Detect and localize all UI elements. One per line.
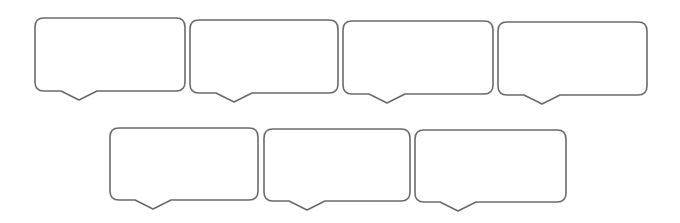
speech-bubble-4 (498, 22, 647, 104)
speech-bubble-outline (415, 130, 566, 211)
speech-bubble-7 (415, 130, 566, 211)
speech-bubble-3 (343, 21, 493, 103)
speech-bubble-outline (190, 20, 338, 102)
speech-bubble-1 (35, 18, 185, 100)
speech-bubble-outline (110, 128, 258, 209)
bubble-group (35, 18, 647, 211)
speech-bubble-outline (264, 129, 410, 210)
speech-bubble-6 (264, 129, 410, 210)
speech-bubble-outline (343, 21, 493, 103)
speech-bubble-2 (190, 20, 338, 102)
speech-bubble-5 (110, 128, 258, 209)
speech-bubble-outline (498, 22, 647, 104)
speech-bubble-outline (35, 18, 185, 100)
speech-bubble-diagram (0, 0, 680, 223)
